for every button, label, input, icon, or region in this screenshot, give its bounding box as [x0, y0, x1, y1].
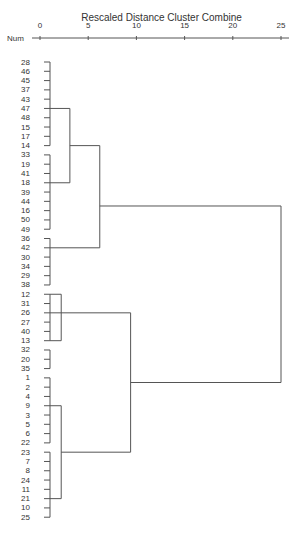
- dendrogram-plot: [0, 0, 305, 546]
